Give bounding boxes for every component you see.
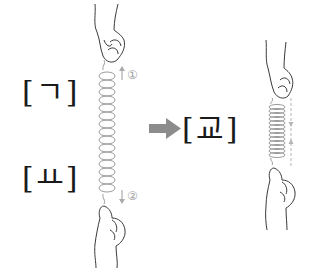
pull-up-arrow-icon (119, 66, 125, 80)
step-1-marker: ① (127, 69, 138, 81)
top-hand-icon (95, 4, 125, 62)
right-top-hand-icon (266, 40, 293, 98)
compressed-spring-icon (269, 98, 285, 165)
bottom-hand-icon (95, 206, 125, 268)
stretched-spring-icon (99, 60, 115, 204)
pull-down-arrow-icon (119, 190, 125, 204)
compress-direction-arrows-icon (289, 98, 294, 168)
step-2-marker: ② (127, 190, 138, 202)
right-arrow-icon (149, 118, 181, 139)
right-bottom-hand-icon (266, 168, 296, 230)
spring-diagram (0, 0, 309, 272)
